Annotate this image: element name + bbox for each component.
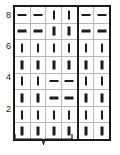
stitch-cell-r2-c1 [15,106,31,123]
knit-symbol [37,77,39,86]
stitch-cell-r2-c2 [30,106,46,123]
knit-symbol [52,60,55,69]
stitch-cell-r8-c6 [94,7,110,24]
knit-symbol [101,110,103,119]
purl-symbol [49,80,58,82]
stitch-cell-r8-c1 [15,7,31,24]
knit-symbol [85,77,87,86]
knit-symbol [68,110,70,119]
stitch-cell-r2-c3 [46,106,62,123]
purl-symbol [97,30,106,33]
stitch-cell-r2-c6 [94,106,110,123]
knit-symbol [84,60,87,69]
stitch-cell-r4-c6 [94,73,110,90]
stitch-cell-r5-c5 [78,56,94,73]
stitch-cell-r5-c2 [30,56,46,73]
stitch-cell-r4-c1 [15,73,31,90]
row-number-left-8: 8 [2,11,11,20]
stitch-grid [14,6,110,140]
knit-symbol [37,44,39,53]
knit-symbol [68,44,70,53]
purl-symbol [81,14,90,16]
chart-grid-wrapper [14,6,102,131]
row-number-left-2: 2 [2,105,11,114]
knit-symbol [21,77,23,86]
chart-row-5 [15,56,110,73]
stitch-cell-r7-c5 [78,23,94,40]
stitch-cell-r3-c1 [15,90,31,107]
stitch-cell-r1-c6 [94,123,110,140]
knit-symbol [101,44,103,53]
knit-symbol [101,77,103,86]
stitch-cell-r6-c1 [15,40,31,57]
purl-symbol [81,30,90,33]
knit-symbol [53,10,55,19]
chart-row-3 [15,90,110,107]
stitch-cell-r3-c5 [78,90,94,107]
knit-symbol [84,93,87,102]
stitch-cell-r3-c2 [30,90,46,107]
knit-symbol [68,60,71,69]
stitch-cell-r6-c3 [46,40,62,57]
stitch-cell-r7-c6 [94,23,110,40]
knit-symbol [100,93,103,102]
stitch-cell-r6-c4 [61,40,77,57]
purl-symbol [33,14,42,16]
stitch-cell-r4-c2 [30,73,46,90]
row-number-left-6: 6 [2,42,11,51]
stitch-cell-r5-c6 [94,56,110,73]
knit-symbol [85,44,87,53]
knit-symbol [21,44,23,53]
purl-symbol [18,30,27,33]
knit-symbol [85,110,87,119]
stitch-cell-r4-c4 [61,73,77,90]
knit-symbol [37,110,39,119]
purl-symbol [18,14,27,16]
stitch-cell-r5-c3 [46,56,62,73]
knit-symbol [21,93,24,102]
stitch-cell-r3-c6 [94,90,110,107]
stitch-cell-r8-c3 [46,7,62,24]
stitch-cell-r2-c5 [78,106,94,123]
knit-symbol [68,27,71,36]
knit-symbol [36,93,39,102]
stitch-cell-r3-c3 [46,90,62,107]
stitch-cell-r5-c4 [61,56,77,73]
purl-symbol [65,96,74,99]
knit-symbol [84,127,87,136]
repeat-bracket [14,134,73,145]
chart-row-8 [15,7,110,24]
stitch-cell-r8-c4 [61,7,77,24]
stitch-cell-r2-c4 [61,106,77,123]
stitch-cell-r5-c1 [15,56,31,73]
stitch-cell-r6-c2 [30,40,46,57]
stitch-cell-r7-c4 [61,23,77,40]
stitch-cell-r8-c5 [78,7,94,24]
row-number-left-4: 4 [2,73,11,82]
stitch-cell-r1-c5 [78,123,94,140]
chart-row-4 [15,73,110,90]
knitting-chart: 8 6 4 2 7 5 3 1 [0,0,120,155]
purl-symbol [97,14,106,16]
purl-symbol [33,30,42,33]
knit-symbol [100,60,103,69]
knit-symbol [53,110,55,119]
knit-symbol [36,60,39,69]
stitch-cell-r4-c5 [78,73,94,90]
chart-row-7 [15,23,110,40]
stitch-cell-r8-c2 [30,7,46,24]
knit-symbol [21,60,24,69]
stitch-cell-r4-c3 [46,73,62,90]
stitch-cell-r6-c5 [78,40,94,57]
knit-symbol [52,27,55,36]
knit-symbol [53,44,55,53]
chart-row-6 [15,40,110,57]
stitch-cell-r7-c3 [46,23,62,40]
stitch-cell-r7-c1 [15,23,31,40]
chart-row-2 [15,106,110,123]
knit-symbol [100,127,103,136]
stitch-cell-r3-c4 [61,90,77,107]
knit-symbol [21,110,23,119]
knit-symbol [68,10,70,19]
purl-symbol [65,80,74,82]
